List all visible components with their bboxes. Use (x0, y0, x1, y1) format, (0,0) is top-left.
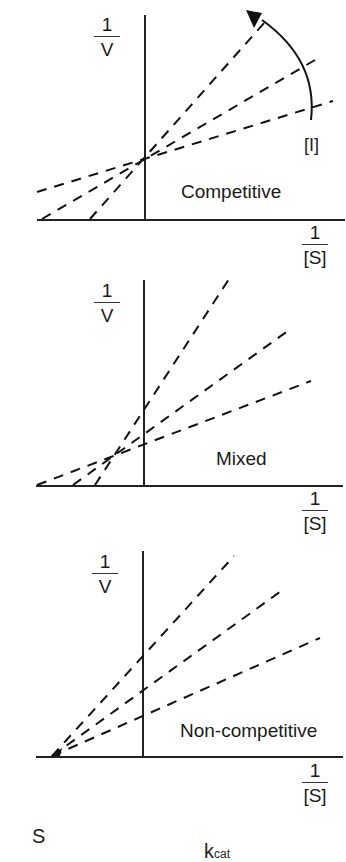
x-axis-label: 1 [S] (298, 222, 332, 268)
kcat-k: k (204, 840, 214, 862)
inhibitor-label: [I] (304, 135, 319, 156)
y-label-numerator: 1 (90, 14, 124, 35)
panel-title-mixed: Mixed (216, 448, 267, 470)
kcat-label: kcat (204, 840, 230, 862)
arrowhead-icon (246, 10, 262, 28)
x-label-denominator: [S] (298, 785, 332, 806)
line-low-inhibitor (37, 381, 311, 485)
fraction-bar (94, 36, 120, 37)
fraction-bar (94, 302, 120, 303)
x-label-denominator: [S] (298, 513, 332, 534)
x-label-numerator: 1 (298, 222, 332, 243)
x-axis-label: 1 [S] (298, 760, 332, 806)
y-axis-label: 1 V (88, 551, 122, 597)
line-low-inhibitor (37, 101, 333, 192)
x-label-numerator: 1 (298, 488, 332, 509)
kcat-subscript: cat (214, 847, 230, 861)
x-label-denominator: [S] (298, 247, 332, 268)
y-axis-label: 1 V (90, 280, 124, 326)
y-label-numerator: 1 (88, 551, 122, 572)
y-label-denominator: V (90, 305, 124, 326)
x-label-numerator: 1 (298, 760, 332, 781)
fraction-bar (302, 510, 328, 511)
panel-mixed (36, 279, 343, 486)
x-axis-label: 1 [S] (298, 488, 332, 534)
y-label-numerator: 1 (90, 280, 124, 301)
panel-title-noncompetitive: Non-competitive (180, 720, 317, 742)
substrate-label: S (32, 825, 45, 848)
y-label-denominator: V (88, 576, 122, 597)
y-label-denominator: V (90, 39, 124, 60)
convergence-arrow-icon (50, 748, 62, 757)
fraction-bar (92, 573, 118, 574)
inhibitor-arrow-icon (262, 20, 312, 120)
y-axis-label: 1 V (90, 14, 124, 60)
panel-title-competitive: Competitive (181, 181, 281, 203)
fraction-bar (302, 782, 328, 783)
fraction-bar (302, 244, 328, 245)
